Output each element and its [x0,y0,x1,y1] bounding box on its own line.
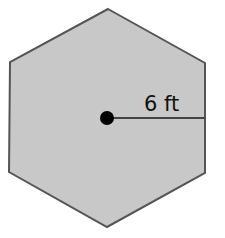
radius-label: 6 ft [144,92,179,116]
center-dot [100,111,114,125]
hexagon-diagram: 6 ft [0,0,225,238]
